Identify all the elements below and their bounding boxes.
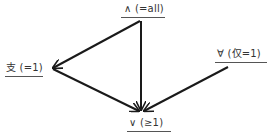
edge-one-to-at-least-one	[53, 69, 139, 111]
node-all-label: ∧ (=all)	[124, 3, 164, 15]
node-one-underline	[5, 76, 43, 77]
diagram-canvas: ∧ (=all) 支 (=1) ∀ (仅=1) ∨ (≥1)	[0, 0, 271, 135]
node-at-least-one-underline	[127, 131, 171, 132]
node-all-underline	[121, 17, 165, 18]
edge-all-to-one	[53, 21, 140, 68]
node-one-label: 支 (=1)	[6, 62, 43, 74]
node-only-one-label: ∀ (仅=1)	[217, 48, 261, 60]
node-at-least-one-label: ∨ (≥1)	[129, 117, 163, 129]
edge-only-one-to-at-least-one	[144, 67, 228, 111]
node-only-one-underline	[215, 62, 267, 63]
